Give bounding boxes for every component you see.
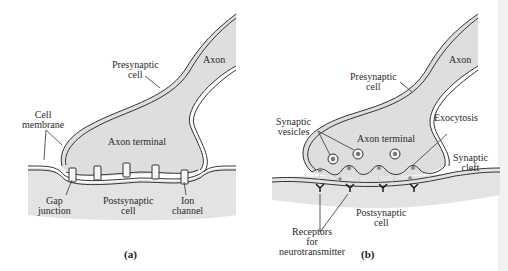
label-a-axon: Axon xyxy=(203,55,225,65)
label-a-gap-junction: Gap junction xyxy=(38,196,71,216)
label-a-cell-membrane-line2: membrane xyxy=(22,120,64,130)
label-b-synaptic-cleft: Synaptic cleft xyxy=(453,153,488,173)
label-b-receptors: Receptors for neurotransmitter xyxy=(279,227,345,257)
synapse-diagram xyxy=(0,0,508,271)
label-b-postsynaptic-line2: cell xyxy=(356,218,407,228)
label-a-postsynaptic-cell: Postsynaptic cell xyxy=(103,196,154,216)
label-b-exocytosis: Exocytosis xyxy=(434,113,478,123)
label-b-synaptic-vesicles-line2: vesicles xyxy=(276,127,311,137)
label-b-presynaptic-line2: cell xyxy=(350,82,397,92)
label-a-presynaptic-cell: Presynaptic cell xyxy=(112,60,159,80)
label-b-axon: Axon xyxy=(449,55,471,65)
label-b-synaptic-cleft-line2: cleft xyxy=(453,163,488,173)
label-a-presynaptic-line2: cell xyxy=(112,70,159,80)
label-b-presynaptic-cell: Presynaptic cell xyxy=(350,72,397,92)
panel-label-b: (b) xyxy=(361,248,374,260)
label-b-axon-terminal: Axon terminal xyxy=(357,134,415,144)
label-a-ion-channel: Ion channel xyxy=(172,196,203,216)
label-a-gap-junction-line2: junction xyxy=(38,206,71,216)
label-a-axon-terminal: Axon terminal xyxy=(108,137,166,147)
label-b-synaptic-vesicles: Synaptic vesicles xyxy=(276,117,311,137)
panel-label-a: (a) xyxy=(124,248,137,260)
label-b-postsynaptic-cell: Postsynaptic cell xyxy=(356,208,407,228)
label-a-postsynaptic-line2: cell xyxy=(103,206,154,216)
label-b-receptors-line3: neurotransmitter xyxy=(279,247,345,257)
label-a-cell-membrane: Cell membrane xyxy=(22,110,64,130)
label-a-ion-channel-line2: channel xyxy=(172,206,203,216)
